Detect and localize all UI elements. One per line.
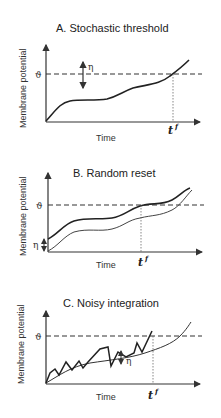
panel-b-firing-time: t — [138, 256, 143, 269]
panel-a-noise-symbol: η — [88, 62, 93, 72]
panel-b-noise-symbol: η — [33, 240, 38, 250]
panel-a-xlabel: Time — [96, 133, 116, 143]
panel-b: B. Random reset Membrane potential ϑ η t… — [18, 167, 204, 270]
panel-b-threshold-symbol: ϑ — [36, 201, 43, 211]
panel-c-threshold-symbol: ϑ — [35, 332, 42, 342]
panel-a-firing-time-sup: f — [174, 122, 180, 131]
panel-a-membrane-trace — [46, 60, 189, 121]
panel-c-ylabel: Membrane potential — [16, 304, 26, 384]
panel-b-membrane-trace-upper — [48, 188, 190, 239]
panel-a-firing-time: t — [168, 124, 173, 137]
panel-b-firing-time-sup: f — [144, 254, 150, 263]
panel-b-membrane-trace-lower — [48, 190, 192, 251]
panel-b-xlabel: Time — [96, 260, 116, 270]
panel-a-title: A. Stochastic threshold — [56, 22, 169, 34]
panel-c-noisy-trace — [46, 331, 152, 383]
panel-a: A. Stochastic threshold Membrane potenti… — [18, 22, 202, 143]
panel-a-ylabel: Membrane potential — [18, 48, 28, 128]
panel-c: C. Noisy integration Membrane potential … — [16, 297, 202, 402]
panel-c-firing-time: t — [148, 389, 153, 402]
noise-models-diagram: A. Stochastic threshold Membrane potenti… — [0, 0, 221, 418]
panel-b-ylabel: Membrane potential — [18, 176, 28, 256]
panel-b-title: B. Random reset — [73, 167, 156, 179]
panel-c-firing-time-sup: f — [154, 387, 160, 396]
panel-c-xlabel: Time — [96, 392, 116, 402]
panel-c-title: C. Noisy integration — [63, 297, 159, 309]
panel-a-threshold-symbol: ϑ — [35, 70, 42, 80]
panel-c-noise-symbol: η — [126, 356, 131, 366]
